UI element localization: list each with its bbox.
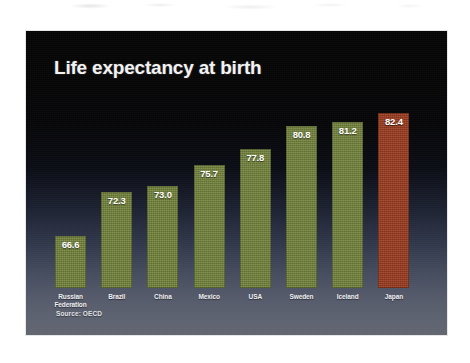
bar-category-label: RussianFederation: [48, 293, 93, 309]
bar-value-label: 66.6: [55, 239, 86, 250]
bar-category-label: Mexico: [187, 293, 232, 301]
bar-category-label: Brazil: [94, 293, 139, 301]
bar-group: 80.8Sweden: [286, 126, 317, 289]
bar: 82.4: [378, 113, 409, 288]
bar-value-label: 82.4: [378, 116, 409, 127]
bar-value-label: 81.2: [332, 125, 363, 136]
presentation-slide: Life expectancy at birth 66.6RussianFede…: [26, 31, 447, 335]
bar-category-label: Sweden: [279, 293, 324, 301]
bar-group: 66.6RussianFederation: [55, 236, 86, 288]
bar-category-label: Japan: [371, 293, 416, 301]
bar: 72.3: [101, 192, 132, 288]
bar-category-label: USA: [233, 293, 278, 301]
bar-value-label: 73.0: [147, 189, 178, 200]
bar-value-label: 77.8: [240, 152, 271, 163]
bar-category-label: Iceland: [325, 293, 370, 301]
bar-group: 81.2Iceland: [332, 122, 363, 288]
bar-value-label: 75.7: [194, 168, 225, 179]
scan-artifact-band: [0, 0, 470, 30]
bar: 73.0: [147, 186, 178, 288]
bar-value-label: 80.8: [286, 129, 317, 140]
bar-group: 77.8USA: [240, 149, 271, 288]
bar-category-label: China: [140, 293, 185, 301]
bar-chart-plot-area: 66.6RussianFederation72.3Brazil73.0China…: [26, 31, 447, 335]
bar-value-label: 72.3: [101, 195, 132, 206]
bar-group: 73.0China: [147, 186, 178, 288]
bar: 77.8: [240, 149, 271, 288]
bar-group: 72.3Brazil: [101, 192, 132, 288]
bar-group: 75.7Mexico: [194, 165, 225, 288]
bar: 66.6: [55, 236, 86, 288]
bar: 81.2: [332, 122, 363, 288]
bar: 80.8: [286, 126, 317, 289]
bar-group: 82.4Japan: [378, 113, 409, 288]
bar: 75.7: [194, 165, 225, 288]
source-note: Source: OECD: [56, 310, 102, 317]
